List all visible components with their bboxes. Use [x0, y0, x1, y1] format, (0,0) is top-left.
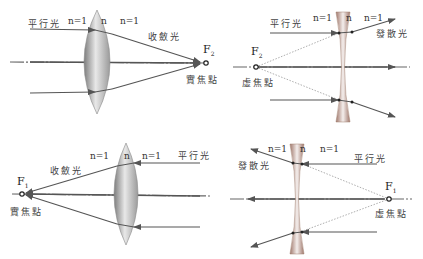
focal-point-f1 — [387, 197, 391, 201]
label-focus: F2 — [251, 46, 262, 59]
label-focus: F1 — [17, 176, 28, 189]
label-n-left: n=1 — [268, 145, 287, 154]
label-diverging-light: 發散光 — [376, 30, 409, 39]
incoming-ray-bottom — [30, 92, 95, 93]
label-converging-light: 收斂光 — [50, 167, 83, 176]
lens-diagram — [0, 0, 423, 259]
label-n-lens: n — [124, 152, 130, 161]
focal-point-f2 — [254, 65, 258, 69]
label-parallel-light: 平行光 — [270, 20, 303, 29]
label-parallel-light: 平行光 — [178, 152, 211, 161]
focal-point-f2 — [204, 61, 208, 65]
axis-ray — [30, 62, 200, 63]
label-real-focus: 實焦點 — [10, 208, 43, 217]
incoming-ray-top — [30, 29, 95, 30]
label-parallel-light: 平行光 — [354, 155, 387, 164]
label-focus: F1 — [385, 181, 396, 194]
label-n-lens: n — [101, 17, 107, 26]
label-n-right: n=1 — [320, 145, 339, 154]
label-converging-light: 收斂光 — [148, 33, 181, 42]
label-parallel-light: 平行光 — [28, 20, 61, 29]
label-n-right: n=1 — [120, 17, 139, 26]
label-n-lens: n — [346, 14, 352, 23]
diverging-ray-bottom — [352, 102, 395, 117]
label-virtual-focus: 虛焦點 — [242, 79, 275, 88]
virtual-ray-top — [300, 163, 389, 199]
label-n-lens: n — [300, 145, 306, 154]
label-n-left: n=1 — [313, 14, 332, 23]
label-n-right: n=1 — [142, 152, 161, 161]
label-virtual-focus: 虛焦點 — [375, 210, 408, 219]
virtual-ray-top — [256, 33, 339, 67]
label-focus: F2 — [203, 44, 214, 57]
label-diverging-light: 發散光 — [238, 162, 271, 171]
axis-ray — [26, 194, 200, 196]
label-real-focus: 實焦點 — [186, 76, 219, 85]
focal-point-f1 — [20, 192, 24, 196]
label-n-right: n=1 — [364, 14, 383, 23]
diverging-ray-bottom — [251, 233, 293, 247]
label-n-left: n=1 — [68, 17, 87, 26]
label-n-left: n=1 — [90, 152, 109, 161]
